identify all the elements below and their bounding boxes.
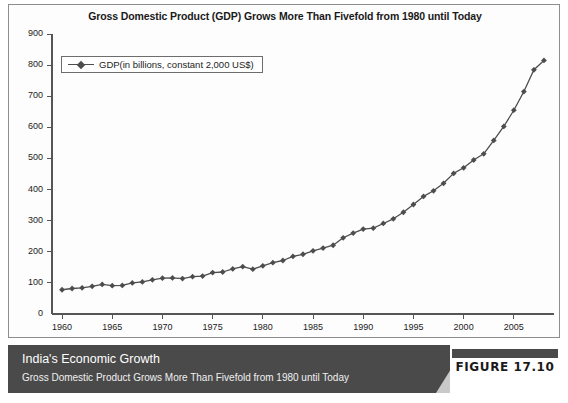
chart-legend: GDP(in billions, constant 2,000 US$) bbox=[61, 56, 263, 73]
data-point-marker bbox=[300, 251, 306, 257]
data-point-marker bbox=[160, 275, 166, 281]
y-axis-tick-label: 0 bbox=[9, 308, 43, 318]
y-axis-tick-label: 400 bbox=[9, 184, 43, 194]
data-point-marker bbox=[200, 273, 206, 279]
data-point-marker bbox=[180, 276, 186, 282]
data-point-marker bbox=[350, 230, 356, 236]
y-axis-tick-label: 100 bbox=[9, 277, 43, 287]
caption-subtitle: Gross Domestic Product Grows More Than F… bbox=[22, 372, 349, 383]
x-axis-tick-label: 1970 bbox=[137, 322, 187, 332]
data-point-marker bbox=[150, 277, 156, 283]
x-axis-tick-label: 1980 bbox=[238, 322, 288, 332]
data-point-marker bbox=[59, 287, 65, 293]
y-axis-tick-label: 300 bbox=[9, 215, 43, 225]
x-axis-tick-label: 2005 bbox=[489, 322, 539, 332]
data-point-marker bbox=[190, 274, 196, 280]
y-axis-tick-label: 700 bbox=[9, 90, 43, 100]
x-axis-tick-label: 1975 bbox=[188, 322, 238, 332]
x-axis-tick-label: 2000 bbox=[439, 322, 489, 332]
data-point-marker bbox=[290, 254, 296, 260]
figure-number-label: FIGURE 17.10 bbox=[452, 360, 558, 374]
data-point-marker bbox=[230, 266, 236, 272]
data-point-marker bbox=[320, 245, 326, 251]
y-axis-tick-label: 500 bbox=[9, 152, 43, 162]
data-point-marker bbox=[109, 283, 115, 289]
figure-number-block: FIGURE 17.10 bbox=[450, 345, 560, 393]
data-point-marker bbox=[360, 226, 366, 232]
y-axis-tick-label: 600 bbox=[9, 121, 43, 131]
legend-label-gdp: GDP(in billions, constant 2,000 US$) bbox=[99, 59, 254, 70]
data-point-marker bbox=[79, 285, 85, 291]
y-axis-tick-label: 200 bbox=[9, 246, 43, 256]
data-point-marker bbox=[521, 89, 527, 95]
data-point-marker bbox=[270, 260, 276, 266]
x-axis-tick-label: 1960 bbox=[37, 322, 87, 332]
data-point-marker bbox=[69, 286, 75, 292]
chart-panel: Gross Domestic Product (GDP) Grows More … bbox=[8, 4, 560, 338]
y-axis-tick-label: 900 bbox=[9, 28, 43, 38]
data-point-marker bbox=[119, 282, 125, 288]
data-point-marker bbox=[220, 269, 226, 275]
data-point-marker bbox=[310, 248, 316, 254]
y-axis-tick-label: 800 bbox=[9, 59, 43, 69]
data-point-marker bbox=[240, 264, 246, 270]
data-point-marker bbox=[210, 270, 216, 276]
axis-group bbox=[47, 34, 554, 319]
figure-caption-bar: India's Economic Growth Gross Domestic P… bbox=[8, 345, 560, 393]
legend-marker-icon bbox=[68, 60, 94, 69]
caption-title: India's Economic Growth bbox=[22, 352, 160, 366]
figure-number-rule bbox=[452, 349, 558, 358]
data-point-marker bbox=[370, 225, 376, 231]
x-axis-tick-label: 1990 bbox=[338, 322, 388, 332]
series-gdp bbox=[59, 58, 547, 293]
data-point-marker bbox=[99, 282, 105, 288]
figure-container: Gross Domestic Product (GDP) Grows More … bbox=[0, 0, 568, 403]
x-axis-tick-label: 1985 bbox=[288, 322, 338, 332]
data-point-marker bbox=[89, 283, 95, 289]
data-point-marker bbox=[139, 279, 145, 285]
data-point-marker bbox=[380, 221, 386, 227]
data-point-marker bbox=[170, 275, 176, 281]
x-axis-tick-label: 1965 bbox=[87, 322, 137, 332]
data-point-marker bbox=[250, 266, 256, 272]
data-point-marker bbox=[129, 280, 135, 286]
data-point-marker bbox=[280, 258, 286, 264]
x-axis-tick-label: 1995 bbox=[388, 322, 438, 332]
data-point-marker bbox=[511, 107, 517, 113]
data-point-marker bbox=[260, 263, 266, 269]
